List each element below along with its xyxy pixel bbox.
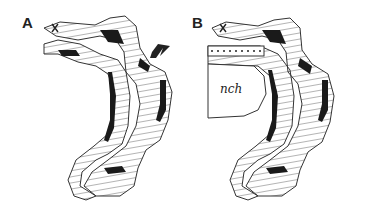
panel-a [44, 16, 172, 200]
panel-b [208, 18, 334, 200]
notochord-label: nch [220, 82, 242, 96]
diagram-svg [0, 0, 366, 208]
panel-label-b: B [192, 14, 203, 31]
cell-nuclei [211, 50, 261, 52]
panel-label-a: A [22, 14, 33, 31]
arrow-icon [150, 44, 170, 58]
diagram-figure: A B nch [0, 0, 366, 208]
